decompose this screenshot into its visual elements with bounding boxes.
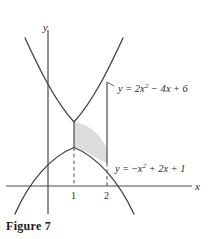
equation-upper-term3: 6 xyxy=(183,83,188,94)
equation-lower-equals: = xyxy=(123,163,129,174)
equation-label-upper-parabola: y = 2x2 − 4x + 6 xyxy=(118,83,188,94)
figure-caption: Figure 7 xyxy=(6,219,51,234)
equation-lower-operator-2: + xyxy=(171,163,177,174)
equation-lower-operator-1: + xyxy=(149,163,155,174)
equation-upper-operator-1: − xyxy=(152,83,158,94)
x-tick-label-1: 1 xyxy=(71,190,76,201)
curve-upper-parabola xyxy=(25,38,123,122)
equation-upper-equals: = xyxy=(126,83,132,94)
equation-lower-term1-exponent: 2 xyxy=(143,162,147,170)
leader-line-upper-equation xyxy=(107,82,114,86)
plot-canvas xyxy=(0,0,210,239)
y-axis-label: y xyxy=(43,21,48,33)
equation-upper-lhs: y xyxy=(118,83,123,94)
equation-upper-operator-2: + xyxy=(174,83,180,94)
figure-container: y x 1 2 y = 2x2 − 4x + 6 y = −x2 + 2x + … xyxy=(0,0,210,239)
x-axis-label: x xyxy=(195,180,200,192)
equation-lower-lhs: y xyxy=(115,163,120,174)
x-tick-label-2: 2 xyxy=(104,190,109,201)
equation-upper-term2: 4x xyxy=(160,83,170,94)
equation-upper-term1-exponent: 2 xyxy=(145,82,149,90)
equation-label-lower-parabola: y = −x2 + 2x + 1 xyxy=(115,163,186,174)
equation-lower-term3: 1 xyxy=(180,163,185,174)
equation-lower-term2: 2x xyxy=(158,163,168,174)
